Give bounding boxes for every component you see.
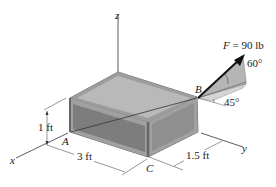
dim-1ft-label: 1 ft [38,121,53,133]
dim-3ft-ext-right [122,159,147,175]
statics-diagram: z x y F = 90 lb 60° 45° B A C 1 ft 3 ft [0,0,276,187]
point-B-label: B [195,83,202,95]
dim-1-5ft-label: 1.5 ft [186,149,209,161]
force-label: F = 90 lb [222,39,264,51]
dim-1ft-arrow-top [46,111,49,115]
dim-1ft-ext-top [44,98,66,110]
point-C-label: C [146,162,154,174]
angle-45-label: 45° [224,96,239,108]
dim-1-5ft-line [149,157,183,170]
angle-60-label: 60° [247,57,262,69]
force-magnitude: = 90 lb [230,39,265,51]
y-axis-label: y [241,142,247,154]
x-axis [16,133,68,158]
z-axis-label: z [114,9,120,21]
y-axis [201,133,243,147]
point-A-label: A [61,135,69,147]
x-axis-label: x [9,154,15,166]
dim-3ft-label: 3 ft [77,150,92,162]
